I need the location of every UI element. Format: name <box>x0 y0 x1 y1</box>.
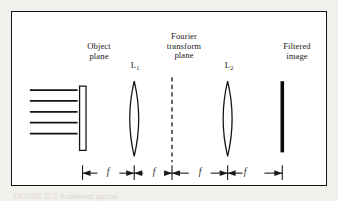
figure-caption: FIGURE 11.5 A coherent optical <box>13 192 313 201</box>
dim-arrow-right <box>274 170 282 176</box>
dim-arrow-left <box>172 170 180 176</box>
dim-arrow-right <box>220 170 228 176</box>
focal-length-label-2: f <box>143 167 165 177</box>
dim-arrow-right <box>126 170 134 176</box>
label-fourier-line3: plane <box>138 51 230 61</box>
object-plane-slide <box>80 86 86 150</box>
label-lens-1-subscript: 1 <box>136 64 139 71</box>
dim-arrow-left <box>83 170 91 176</box>
label-lens-2-subscript: 2 <box>230 64 233 71</box>
label-fourier-transform-plane: Fourier transform plane <box>138 32 230 61</box>
biconvex-lens-1 <box>130 81 139 156</box>
dim-arrow-left <box>134 170 142 176</box>
label-object-plane: Object plane <box>57 42 141 61</box>
focal-length-label-1: f <box>97 167 119 177</box>
label-lens-2: L2 <box>206 61 252 73</box>
dim-arrow-right <box>164 170 172 176</box>
focal-length-label-3: f <box>189 167 211 177</box>
biconvex-lens-2 <box>223 81 232 156</box>
collimated-wavefront-rays <box>30 90 78 133</box>
label-lens-1: L1 <box>112 61 158 73</box>
label-object-plane-line2: plane <box>57 52 141 62</box>
label-filtered-image: Filtered image <box>252 42 338 61</box>
label-filtered-line2: image <box>252 52 338 62</box>
figure-frame: Object plane L1 Fourier transform plane … <box>11 11 327 186</box>
focal-length-label-4: f <box>234 167 256 177</box>
